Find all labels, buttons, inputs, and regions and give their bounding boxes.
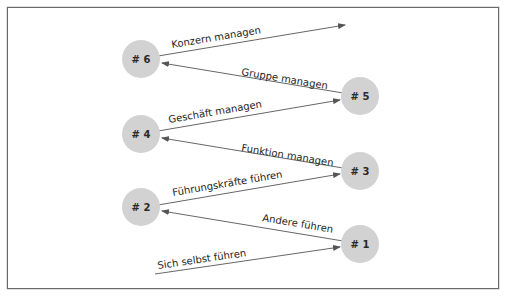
node-2: # 2 bbox=[122, 188, 160, 226]
edge-label: Funktion managen bbox=[241, 142, 335, 168]
leadership-pipeline-diagram: Sich selbst führen Andere führen Führung… bbox=[0, 0, 505, 297]
node-4: # 4 bbox=[122, 115, 160, 153]
edge-label: Gruppe managen bbox=[241, 66, 329, 91]
node-3: # 3 bbox=[341, 152, 379, 190]
edge-funktion-managen: Funktion managen bbox=[162, 138, 343, 168]
node-label: # 6 bbox=[132, 54, 151, 65]
edge-andere-fuehren: Andere führen bbox=[162, 211, 343, 241]
edge-gruppe-managen: Gruppe managen bbox=[162, 63, 343, 93]
diagram-canvas: Sich selbst führen Andere führen Führung… bbox=[0, 0, 505, 297]
edge-fuehrungskraefte-fuehren: Führungskräfte führen bbox=[158, 169, 340, 205]
node-5: # 5 bbox=[341, 77, 379, 115]
edge-label: Andere führen bbox=[262, 212, 334, 235]
node-label: # 1 bbox=[351, 239, 370, 250]
node-1: # 1 bbox=[341, 225, 379, 263]
node-label: # 2 bbox=[132, 202, 151, 213]
node-6: # 6 bbox=[122, 40, 160, 78]
node-label: # 4 bbox=[132, 129, 151, 140]
edge-konzern-managen: Konzern managen bbox=[158, 24, 345, 56]
edge-sich-selbst-fuehren: Sich selbst führen bbox=[155, 247, 340, 274]
node-label: # 5 bbox=[351, 91, 370, 102]
edge-geschaeft-managen: Geschäft managen bbox=[158, 98, 340, 131]
node-label: # 3 bbox=[351, 166, 370, 177]
